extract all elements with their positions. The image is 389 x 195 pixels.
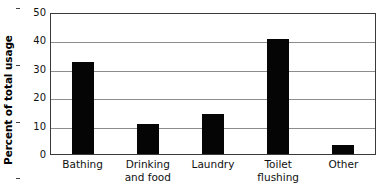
bar-slot [116, 14, 181, 154]
bar [137, 124, 159, 154]
y-axis-tick-labels: 01020304050 [18, 13, 46, 155]
x-tick-label-line: Other [328, 158, 358, 170]
x-tick-label-line: Drinking [126, 158, 170, 170]
x-tick-label: Laundry [180, 158, 245, 171]
y-tick-mark [16, 122, 20, 123]
bar [72, 62, 94, 154]
x-tick-label: Drinkingand food [115, 158, 180, 183]
y-tick-label: 10 [20, 122, 46, 132]
bar-slot [245, 14, 310, 154]
x-tick-label-line: Bathing [62, 158, 103, 170]
plot-area [50, 13, 376, 155]
y-tick-mark [16, 8, 20, 9]
y-tick-label: 0 [20, 150, 46, 160]
bar-slot [310, 14, 375, 154]
x-tick-label: Bathing [50, 158, 115, 171]
bars-layer [51, 14, 375, 154]
bar-slot [181, 14, 246, 154]
bar [202, 114, 224, 154]
y-tick-mark [16, 65, 20, 66]
bar [332, 145, 354, 154]
x-tick-label: Other [311, 158, 376, 171]
x-tick-label: Toiletflushing [246, 158, 311, 183]
y-axis-title: Percent of total usage [0, 29, 16, 171]
y-tick-mark [16, 178, 20, 179]
y-tick-label: 50 [20, 8, 46, 18]
bar-chart-figure: Percent of total usage 01020304050 Bathi… [0, 0, 389, 195]
y-tick-label: 40 [20, 36, 46, 46]
y-tick-label: 30 [20, 65, 46, 75]
x-tick-label-line: Laundry [192, 158, 235, 170]
bar-slot [51, 14, 116, 154]
bar [267, 39, 289, 154]
x-tick-label-line: and food [115, 171, 180, 184]
x-tick-label-line: flushing [246, 171, 311, 184]
x-axis-tick-labels: BathingDrinkingand foodLaundryToiletflus… [50, 158, 376, 194]
y-tick-label: 20 [20, 93, 46, 103]
x-tick-label-line: Toilet [264, 158, 291, 170]
